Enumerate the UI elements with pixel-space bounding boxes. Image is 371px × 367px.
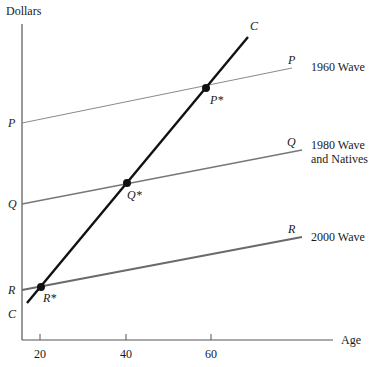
chart: Dollars Age 20 40 60 P Q R C P 1960 Wave… [0,0,371,367]
line-c-label: C [250,19,259,33]
x-tick-label: 60 [205,347,217,361]
point-q-star [123,179,131,187]
point-q-star-label: Q* [127,188,142,202]
y-label-p: P [7,116,16,130]
point-p-star [202,84,210,92]
legend-1960-wave: 1960 Wave [311,60,365,74]
line-p-label: P [287,53,296,67]
point-r-star [37,283,45,291]
y-axis-title: Dollars [6,4,42,18]
line-1980-wave [22,150,302,204]
y-label-q: Q [8,197,17,211]
line-2000-wave [22,237,302,290]
line-r-label: R [287,222,296,236]
line-q-label: Q [287,135,296,149]
x-axis-title: Age [341,333,361,347]
x-tick-label: 20 [34,347,46,361]
point-p-star-label: P* [209,93,223,107]
line-c [27,37,248,303]
legend-1980-natives: and Natives [311,152,368,166]
legend-2000-wave: 2000 Wave [311,230,365,244]
point-r-star-label: R* [42,291,56,305]
y-label-r: R [7,283,16,297]
x-tick-label: 40 [120,347,132,361]
line-1960-wave [22,68,292,123]
y-label-c: C [8,307,17,321]
legend-1980-wave: 1980 Wave [311,138,365,152]
